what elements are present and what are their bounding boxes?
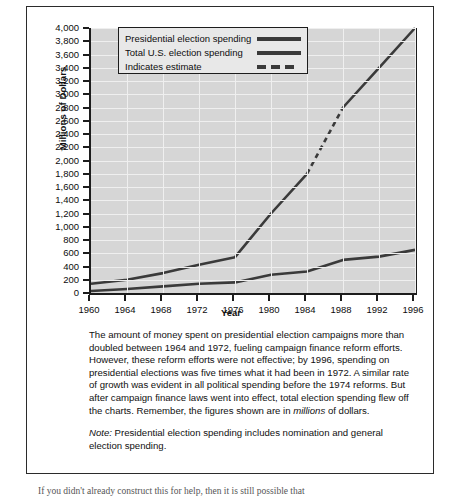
legend-label-estimate: Indicates estimate — [125, 61, 202, 72]
y-tick-mark — [83, 239, 89, 241]
legend-swatch-solid-total — [257, 51, 301, 55]
gridline-vertical — [415, 28, 416, 293]
gridline-horizontal — [91, 174, 415, 175]
y-tick-label: 200 — [27, 275, 79, 285]
caption-note: Note: Presidential election spending inc… — [89, 427, 409, 452]
gridline-horizontal — [91, 134, 415, 135]
series-line-estimate-segment — [307, 108, 343, 174]
y-tick-mark — [83, 54, 89, 56]
y-tick-mark — [83, 27, 89, 29]
gridline-horizontal — [91, 200, 415, 201]
y-tick-mark — [83, 67, 89, 69]
x-axis-title: Year — [27, 307, 435, 318]
y-tick-label: 1,200 — [27, 209, 79, 219]
legend-item-estimate: Indicates estimate — [125, 60, 301, 73]
y-tick-label: 3,000 — [27, 89, 79, 99]
figure-border: Millions of Dollars 02004006008001,0001,… — [26, 6, 434, 474]
y-tick-label: 2,800 — [27, 103, 79, 113]
y-tick-label: 1,000 — [27, 222, 79, 232]
y-tick-mark — [83, 80, 89, 82]
y-tick-mark — [83, 133, 89, 135]
y-tick-label: 1,800 — [27, 169, 79, 179]
y-tick-mark — [83, 292, 89, 294]
y-tick-label: 3,200 — [27, 76, 79, 86]
gridline-horizontal — [91, 187, 415, 188]
gridline-horizontal — [91, 214, 415, 215]
y-tick-label: 1,400 — [27, 195, 79, 205]
y-tick-mark — [83, 213, 89, 215]
note-label: Note: — [89, 427, 112, 438]
figure-caption: The amount of money spent on presidentia… — [89, 329, 409, 452]
gridline-horizontal — [91, 267, 415, 268]
gridline-horizontal — [91, 81, 415, 82]
chart-legend: Presidential election spending Total U.S… — [118, 27, 308, 74]
gridline-horizontal — [91, 253, 415, 254]
y-tick-label: 3,400 — [27, 63, 79, 73]
y-tick-mark — [83, 120, 89, 122]
x-tick-mark — [160, 295, 162, 301]
y-tick-label: 0 — [27, 288, 79, 298]
x-tick-mark — [340, 295, 342, 301]
x-tick-mark — [196, 295, 198, 301]
caption-italic-millions: millions — [293, 405, 325, 416]
x-tick-mark — [124, 295, 126, 301]
caption-text-1-end: of dollars. — [325, 405, 369, 416]
y-tick-label: 2,200 — [27, 142, 79, 152]
gridline-horizontal — [91, 108, 415, 109]
x-tick-mark — [268, 295, 270, 301]
legend-label-presidential: Presidential election spending — [125, 33, 251, 44]
y-tick-label: 400 — [27, 262, 79, 272]
gridline-vertical — [379, 28, 380, 293]
y-tick-mark — [83, 173, 89, 175]
y-tick-label: 3,600 — [27, 50, 79, 60]
x-tick-mark — [376, 295, 378, 301]
caption-text-1: The amount of money spent on presidentia… — [89, 329, 409, 416]
y-tick-label: 4,000 — [27, 23, 79, 33]
chart-plot-wrapper: Millions of Dollars 02004006008001,0001,… — [27, 7, 435, 323]
gridline-horizontal — [91, 227, 415, 228]
y-tick-mark — [83, 226, 89, 228]
y-tick-label: 600 — [27, 248, 79, 258]
gridline-horizontal — [91, 147, 415, 148]
legend-swatch-dashed-estimate — [257, 65, 301, 69]
y-tick-label: 2,600 — [27, 116, 79, 126]
y-tick-mark — [83, 279, 89, 281]
x-tick-mark — [88, 295, 90, 301]
caption-paragraph: The amount of money spent on presidentia… — [89, 329, 409, 417]
legend-item-total: Total U.S. election spending — [125, 46, 301, 59]
figure-page: Millions of Dollars 02004006008001,0001,… — [0, 0, 462, 499]
gridline-horizontal — [91, 121, 415, 122]
page-body-text-fragment: If you didn't already construct this for… — [38, 486, 438, 498]
y-tick-mark — [83, 107, 89, 109]
y-tick-mark — [83, 40, 89, 42]
y-tick-mark — [83, 93, 89, 95]
gridline-horizontal — [91, 94, 415, 95]
x-tick-mark — [412, 295, 414, 301]
y-tick-label: 2,000 — [27, 156, 79, 166]
y-tick-mark — [83, 146, 89, 148]
y-tick-mark — [83, 199, 89, 201]
series-line-1 — [91, 250, 415, 291]
note-text: Presidential election spending includes … — [89, 427, 383, 451]
y-tick-label: 1,600 — [27, 182, 79, 192]
y-tick-mark — [83, 266, 89, 268]
y-tick-label: 3,800 — [27, 36, 79, 46]
y-tick-label: 2,400 — [27, 129, 79, 139]
gridline-horizontal — [91, 161, 415, 162]
legend-swatch-solid-presidential — [257, 37, 301, 41]
gridline-horizontal — [91, 280, 415, 281]
gridline-vertical — [343, 28, 344, 293]
gridline-horizontal — [91, 240, 415, 241]
x-tick-mark — [304, 295, 306, 301]
y-tick-mark — [83, 252, 89, 254]
legend-label-total: Total U.S. election spending — [125, 47, 243, 58]
y-tick-mark — [83, 160, 89, 162]
y-tick-mark — [83, 186, 89, 188]
x-tick-mark — [232, 295, 234, 301]
y-tick-label: 800 — [27, 235, 79, 245]
legend-item-presidential: Presidential election spending — [125, 32, 301, 45]
